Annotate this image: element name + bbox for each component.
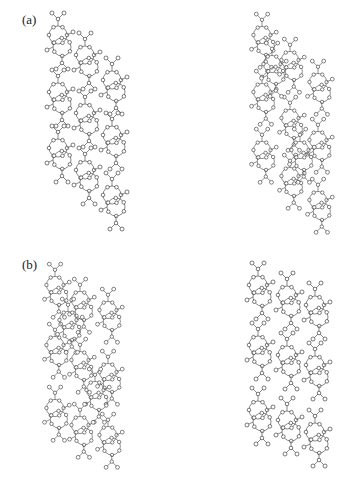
atom bbox=[271, 97, 274, 100]
atom bbox=[79, 45, 83, 49]
atom bbox=[103, 449, 106, 452]
atom bbox=[114, 106, 118, 110]
atom bbox=[289, 446, 293, 450]
atom bbox=[120, 112, 124, 116]
atom bbox=[318, 295, 322, 299]
ring bbox=[253, 26, 270, 43]
atom bbox=[70, 345, 73, 348]
atom bbox=[115, 125, 119, 129]
panel-a-left-view bbox=[45, 11, 129, 231]
molecule bbox=[306, 177, 335, 234]
atom bbox=[326, 230, 330, 234]
atom bbox=[310, 380, 314, 384]
atom bbox=[245, 358, 249, 362]
atom bbox=[250, 261, 254, 265]
atom bbox=[120, 305, 124, 309]
atom bbox=[245, 298, 249, 302]
molecule bbox=[45, 11, 75, 71]
atom bbox=[250, 321, 254, 325]
atom bbox=[261, 275, 265, 279]
atom bbox=[302, 318, 306, 322]
atom bbox=[267, 78, 270, 81]
atom bbox=[311, 337, 315, 341]
atom bbox=[257, 98, 260, 101]
atom bbox=[316, 183, 319, 186]
atom bbox=[295, 327, 299, 331]
atom bbox=[308, 198, 311, 201]
atom bbox=[98, 50, 102, 54]
atom bbox=[90, 314, 93, 317]
atom bbox=[76, 390, 80, 394]
atom bbox=[328, 96, 331, 99]
atom bbox=[97, 415, 100, 418]
atom bbox=[111, 301, 114, 304]
atom bbox=[106, 185, 110, 189]
atom bbox=[79, 103, 83, 107]
atom bbox=[266, 55, 269, 58]
atom bbox=[313, 214, 316, 217]
atom bbox=[114, 81, 118, 85]
atom bbox=[271, 280, 275, 284]
atom bbox=[283, 452, 287, 456]
atom bbox=[107, 150, 111, 154]
atom bbox=[72, 126, 76, 130]
atom bbox=[70, 321, 73, 324]
atom bbox=[51, 375, 55, 379]
atom bbox=[63, 334, 66, 337]
atom bbox=[314, 170, 318, 174]
ring bbox=[76, 161, 94, 179]
atom bbox=[61, 138, 65, 142]
atom bbox=[325, 320, 329, 324]
atom bbox=[122, 150, 126, 154]
atom bbox=[106, 70, 110, 74]
atom bbox=[99, 93, 103, 97]
atom bbox=[81, 202, 85, 206]
ring bbox=[71, 351, 88, 368]
atom bbox=[72, 277, 76, 281]
atom bbox=[261, 335, 265, 339]
atom bbox=[265, 26, 268, 29]
atom bbox=[284, 51, 287, 54]
atom bbox=[314, 112, 318, 116]
atom bbox=[111, 441, 114, 444]
atom bbox=[289, 421, 293, 425]
atom bbox=[79, 160, 83, 164]
atom bbox=[89, 305, 92, 308]
atom bbox=[54, 124, 58, 128]
atom bbox=[60, 297, 64, 301]
atom bbox=[260, 76, 264, 80]
atom bbox=[103, 420, 107, 424]
atom bbox=[108, 167, 112, 171]
atom bbox=[64, 350, 68, 354]
atom bbox=[95, 185, 99, 189]
atom bbox=[328, 427, 332, 431]
ring bbox=[46, 276, 63, 293]
atom bbox=[47, 146, 51, 150]
atom bbox=[321, 206, 324, 209]
atom bbox=[268, 351, 272, 355]
atom bbox=[118, 449, 121, 452]
atom bbox=[71, 30, 75, 34]
ring bbox=[103, 186, 121, 204]
atom bbox=[112, 349, 116, 353]
atom bbox=[261, 400, 265, 404]
atom bbox=[97, 391, 100, 394]
atom bbox=[57, 346, 60, 349]
atom bbox=[102, 301, 105, 304]
ring bbox=[253, 83, 270, 100]
atom bbox=[281, 345, 285, 349]
atom bbox=[320, 141, 323, 144]
atom bbox=[64, 413, 67, 416]
atom bbox=[290, 285, 294, 289]
atom bbox=[96, 322, 100, 326]
atom bbox=[56, 130, 60, 134]
atom bbox=[274, 308, 278, 312]
atom bbox=[115, 201, 119, 205]
atom bbox=[58, 276, 61, 279]
atom bbox=[252, 416, 256, 420]
atom bbox=[282, 153, 286, 157]
atom bbox=[317, 458, 321, 462]
atom bbox=[83, 366, 86, 369]
atom bbox=[313, 206, 316, 209]
atom bbox=[264, 36, 267, 39]
